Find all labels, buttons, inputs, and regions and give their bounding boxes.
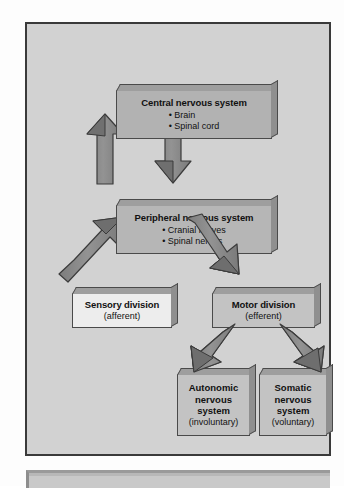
box-bevel-top xyxy=(116,199,276,206)
bullet-item: • Spinal cord xyxy=(169,121,220,133)
node-motor-division[interactable]: Motor division (efferent) xyxy=(212,293,315,328)
box-bevel-top xyxy=(116,84,276,91)
box-bevel-top xyxy=(72,287,176,294)
box-bevel-right xyxy=(271,195,278,253)
secondary-panel-cropped xyxy=(26,470,330,488)
box-bevel-right xyxy=(249,364,256,435)
box-bevel-right xyxy=(314,283,321,327)
arrow-motor-to-somatic xyxy=(280,324,324,372)
node-sensory-division[interactable]: Sensory division (afferent) xyxy=(72,293,172,328)
bullet-item: • Cranial nerves xyxy=(162,225,226,237)
node-title: Sensory division xyxy=(85,299,159,311)
node-central-nervous-system[interactable]: Central nervous system • Brain • Spinal … xyxy=(116,90,272,139)
bullet-item: • Brain xyxy=(169,110,220,122)
node-title-line3: system xyxy=(197,405,230,417)
node-peripheral-nervous-system[interactable]: Peripheral nervous system • Cranial nerv… xyxy=(116,205,272,254)
panel-highlight xyxy=(29,473,330,476)
box-bevel-top xyxy=(212,287,319,294)
node-autonomic-nervous-system[interactable]: Autonomic nervous system (involuntary) xyxy=(177,374,250,436)
node-title-line2: nervous xyxy=(275,394,312,406)
box-bevel-top xyxy=(177,368,254,375)
node-subtitle: (voluntary) xyxy=(272,417,315,428)
node-bullets: • Brain • Spinal cord xyxy=(169,110,220,133)
box-bevel-right xyxy=(326,364,333,435)
diagram-panel: Central nervous system • Brain • Spinal … xyxy=(25,22,331,456)
node-somatic-nervous-system[interactable]: Somatic nervous system (voluntary) xyxy=(259,374,327,436)
box-bevel-right xyxy=(271,80,278,138)
node-title: Peripheral nervous system xyxy=(135,212,254,224)
node-subtitle: (afferent) xyxy=(104,311,140,322)
node-subtitle: (involuntary) xyxy=(189,417,239,428)
node-subtitle: (efferent) xyxy=(245,311,281,322)
arrow-motor-to-autonomic xyxy=(191,324,235,372)
node-title-line3: system xyxy=(277,405,310,417)
node-title-line1: Somatic xyxy=(275,382,312,394)
arrow-sensory-to-pns xyxy=(59,217,123,282)
node-title-line2: nervous xyxy=(195,394,232,406)
box-bevel-right xyxy=(171,283,178,327)
box-bevel-top xyxy=(259,368,331,375)
node-bullets: • Cranial nerves • Spinal nerves xyxy=(162,225,226,248)
node-title: Motor division xyxy=(232,299,296,311)
node-title-line1: Autonomic xyxy=(189,382,239,394)
node-title: Central nervous system xyxy=(141,97,247,109)
bullet-item: • Spinal nerves xyxy=(162,236,226,248)
